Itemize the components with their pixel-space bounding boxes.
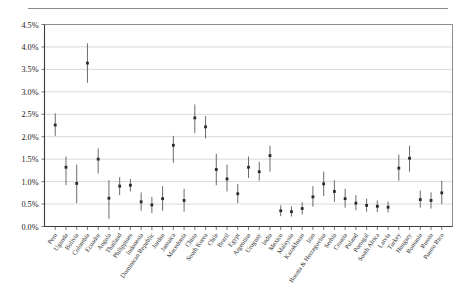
data-point-marker: [118, 185, 121, 188]
data-point-marker: [312, 195, 315, 198]
data-point-marker: [75, 182, 78, 185]
y-axis-tick-label: 0.5%: [21, 200, 38, 209]
data-point-marker: [215, 168, 218, 171]
data-point-marker: [290, 210, 293, 213]
y-axis-tick-label: 3.0%: [21, 88, 38, 97]
y-axis-tick-label: 4.5%: [21, 21, 38, 30]
data-point-marker: [269, 154, 272, 157]
error-bar-chart: 0.0%0.5%1.0%1.5%2.0%2.5%3.0%3.5%4.0%4.5%…: [0, 0, 469, 300]
data-point-marker: [344, 197, 347, 200]
data-point-marker: [204, 125, 207, 128]
data-point-marker: [247, 166, 250, 169]
data-point-marker: [108, 197, 111, 200]
y-axis-tick-label: 0.0%: [21, 223, 38, 232]
data-point-marker: [333, 190, 336, 193]
data-point-marker: [236, 192, 239, 195]
data-point-marker: [97, 158, 100, 161]
data-point-marker: [354, 202, 357, 205]
data-point-marker: [129, 184, 132, 187]
data-point-marker: [86, 62, 89, 65]
data-point-marker: [430, 199, 433, 202]
y-axis-tick-label: 2.5%: [21, 110, 38, 119]
y-axis-tick-label: 1.5%: [21, 155, 38, 164]
data-point-marker: [387, 206, 390, 209]
data-point-marker: [140, 200, 143, 203]
data-point-marker: [172, 144, 175, 147]
data-point-marker: [161, 197, 164, 200]
data-point-marker: [322, 182, 325, 185]
data-point-marker: [279, 209, 282, 212]
y-axis-tick-label: 3.5%: [21, 65, 38, 74]
data-point-marker: [258, 170, 261, 173]
data-point-marker: [408, 157, 411, 160]
data-point-marker: [419, 198, 422, 201]
y-axis-tick-label: 1.0%: [21, 178, 38, 187]
data-point-marker: [150, 204, 153, 207]
data-point-marker: [365, 204, 368, 207]
data-point-marker: [301, 207, 304, 210]
data-point-marker: [65, 166, 68, 169]
data-point-marker: [226, 178, 229, 181]
data-point-marker: [440, 191, 443, 194]
y-axis-tick-label: 4.0%: [21, 43, 38, 52]
data-point-marker: [376, 205, 379, 208]
y-axis-tick-label: 2.0%: [21, 133, 38, 142]
figure-container: 0.0%0.5%1.0%1.5%2.0%2.5%3.0%3.5%4.0%4.5%…: [0, 0, 469, 300]
data-point-marker: [193, 116, 196, 119]
data-point-marker: [397, 167, 400, 170]
data-point-marker: [183, 199, 186, 202]
data-point-marker: [54, 124, 57, 127]
